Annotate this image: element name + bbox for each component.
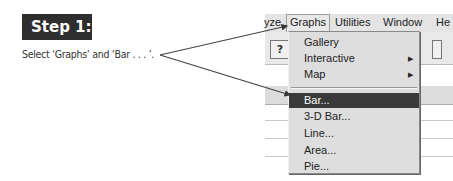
callout-arrows xyxy=(0,0,453,181)
